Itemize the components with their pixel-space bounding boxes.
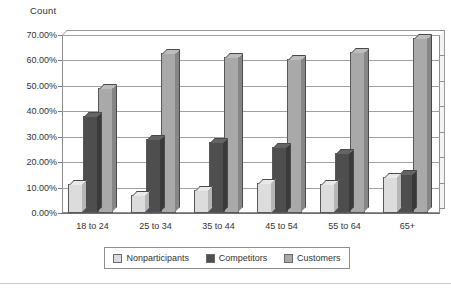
legend-label-competitors: Competitors [219,253,268,263]
legend-swatch-competitors [206,254,215,263]
legend-swatch-nonparticipants [113,254,122,263]
bar-front-face [321,185,334,212]
bar-front-face [195,191,208,212]
x-axis-label: 65+ [400,221,415,231]
y-axis-tick-right [440,208,445,209]
y-axis-tick-right [440,132,445,133]
gridline [62,60,440,61]
x-axis-label: 25 to 34 [139,221,172,231]
bar-front-face [258,184,271,213]
bar-nonparticipants-35-to-44[interactable] [194,190,209,213]
y-axis-tick [58,188,62,189]
y-axis-tick [58,111,62,112]
y-axis-label: 30.00% [0,132,57,142]
bar-side-face [97,112,102,212]
gridline [62,162,440,163]
legend-item-customers[interactable]: Customers [284,253,341,263]
bar-side-face [349,149,354,212]
y-axis-tick-right [440,81,445,82]
y-axis-label: 20.00% [0,157,57,167]
gridline [62,137,440,138]
gridline [62,213,440,214]
chart-title: Count [30,5,56,16]
bar-front-face [384,178,397,212]
y-axis-label: 10.00% [0,183,57,193]
y-axis-tick-right [440,55,445,56]
bar-side-face [427,34,432,212]
bar-side-face [238,53,243,212]
gridline [62,86,440,87]
y-axis-tick-right [440,106,445,107]
legend: Nonparticipants Competitors Customers [104,247,350,269]
legend-item-competitors[interactable]: Competitors [206,253,268,263]
y-axis-tick [58,86,62,87]
y-axis-tick [58,60,62,61]
bar-side-face [112,84,117,212]
bar-nonparticipants-65+[interactable] [383,177,398,213]
gridline [62,35,440,36]
y-axis-label: 0.00% [0,208,57,218]
bar-nonparticipants-25-to-34[interactable] [131,195,146,213]
y-axis-tick [58,213,62,214]
y-axis-label: 50.00% [0,81,57,91]
x-axis-label: 35 to 44 [202,221,235,231]
bar-front-face [132,196,145,212]
y-axis-label: 60.00% [0,55,57,65]
y-axis-tick-right [440,30,445,31]
bar-side-face [397,173,402,212]
bar-side-face [271,179,276,213]
y-axis-tick [58,162,62,163]
bar-chart: Count 0.00%10.00%20.00%30.00%40.00%50.00… [0,0,451,291]
bar-nonparticipants-45-to-54[interactable] [257,183,272,214]
y-axis-tick-right [440,157,445,158]
plot-depth-right-face [440,30,445,213]
legend-label-customers: Customers [297,253,341,263]
bar-side-face [301,55,306,212]
legend-label-nonparticipants: Nonparticipants [126,253,189,263]
y-axis-label: 70.00% [0,30,57,40]
bar-side-face [286,143,291,212]
x-axis-label: 18 to 24 [76,221,109,231]
bar-front-face [69,185,82,212]
plot-area [62,35,440,213]
y-axis-tick [58,137,62,138]
y-axis-tick [58,35,62,36]
bottom-divider [0,283,451,284]
bar-side-face [160,135,165,212]
y-axis-label: 40.00% [0,106,57,116]
bar-side-face [175,49,180,212]
bar-side-face [82,180,87,212]
legend-swatch-customers [284,254,293,263]
bar-side-face [412,170,417,212]
bar-side-face [334,180,339,212]
bar-nonparticipants-55-to-64[interactable] [320,184,335,213]
gridline [62,111,440,112]
bar-nonparticipants-18-to-24[interactable] [68,184,83,213]
y-axis-tick-right [440,183,445,184]
legend-item-nonparticipants[interactable]: Nonparticipants [113,253,189,263]
x-axis-label: 55 to 64 [328,221,361,231]
bar-side-face [223,138,228,212]
x-axis-label: 45 to 54 [265,221,298,231]
bar-side-face [364,48,369,212]
